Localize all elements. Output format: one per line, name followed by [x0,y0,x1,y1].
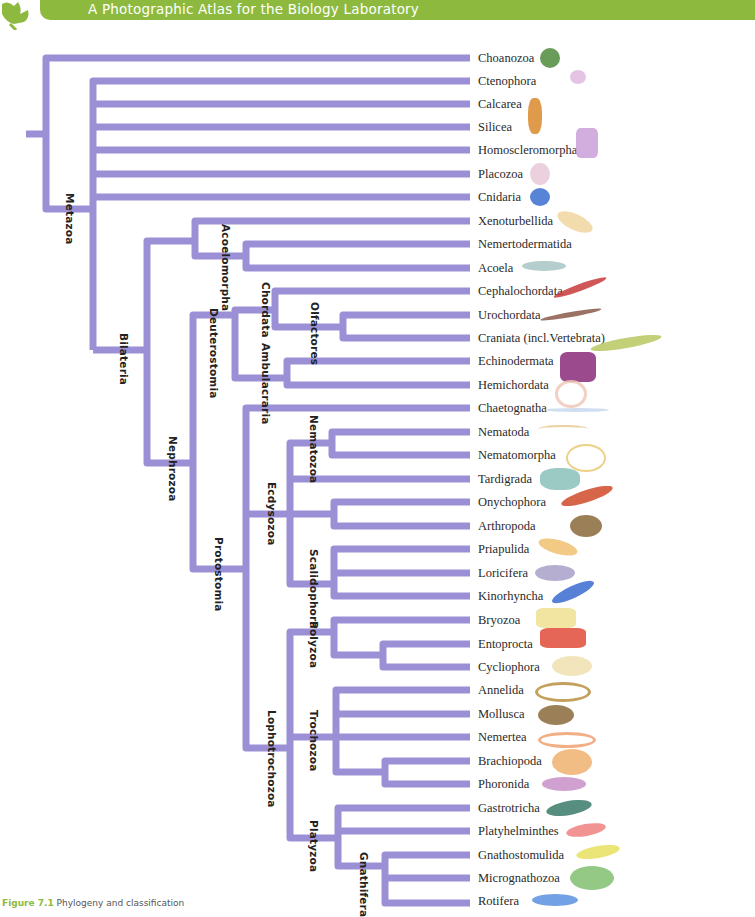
cnidaria-illustration-icon [530,188,550,206]
taxon-label: Loricifera [478,566,528,580]
taxon-label: Phoronida [478,777,529,791]
taxon-label: Onychophora [478,495,546,509]
choanozoa-illustration-icon [540,48,560,68]
taxon-label: Homoscleromorpha [478,143,577,157]
taxon-label: Entoprocta [478,637,533,651]
taxon-label: Mollusca [478,707,525,721]
taxon-label: Nemertodermatida [478,237,572,251]
clade-label-gnathifera: Gnathifera [358,852,370,917]
taxon-label: Nemertea [478,730,527,744]
taxon-label: Platyhelminthes [478,824,559,838]
clade-label-ecdysozoa: Ecdysozoa [266,482,278,545]
calcarea-illustration-icon [528,98,542,134]
taxon-label: Annelida [478,683,524,697]
taxon-label: Gnathostomulida [478,848,564,862]
nemertea-illustration-icon [538,732,596,748]
taxon-label: Nematoda [478,425,529,439]
taxon-label: Chaetognatha [478,401,547,415]
chaetognatha-illustration-icon [545,408,609,412]
acoela-illustration-icon [522,261,566,271]
loricifera-illustration-icon [535,565,575,581]
taxon-label: Echinodermata [478,354,554,368]
taxon-label: Cephalochordata [478,284,563,298]
brachiopoda-illustration-icon [552,749,592,775]
clade-label-lophotrochozoa: Lophotrochozoa [266,710,278,808]
taxon-label: Arthropoda [478,519,536,533]
micrognathozoa-illustration-icon [570,866,614,890]
nematoda-illustration-icon [538,425,588,433]
taxon-label: Brachiopoda [478,754,542,768]
clade-label-polyzoa: Polyzoa [308,621,320,668]
hemichordata-illustration-icon [555,380,587,408]
ctenophora-illustration-icon [570,70,586,84]
taxon-label: Acoela [478,261,513,275]
taxon-label: Calcarea [478,97,522,111]
figure-caption-text: Phylogeny and classification [57,898,185,908]
mollusca-illustration-icon [538,705,574,725]
phoronida-illustration-icon [542,777,586,791]
clade-label-metazoa: Metazoa [64,193,76,245]
figure-caption: Figure 7.1 Phylogeny and classification [2,898,184,908]
clade-label-chordata: Chordata [260,282,272,338]
taxon-label: Cycliophora [478,660,540,674]
echinodermata-illustration-icon [560,352,596,382]
taxon-label: Cnidaria [478,190,521,204]
rotifera-illustration-icon [532,894,578,906]
taxon-label: Rotifera [478,894,519,908]
bryozoa-illustration-icon [536,608,576,628]
taxon-label: Bryozoa [478,613,520,627]
clade-label-protostomia: Protostomia [213,537,225,612]
clade-label-nephrozoa: Nephrozoa [167,436,179,502]
taxon-label: Hemichordata [478,378,549,392]
taxon-label: Kinorhyncha [478,589,543,603]
taxon-label: Silicea [478,120,512,134]
arthropoda-illustration-icon [570,515,602,537]
taxon-label: Nematomorpha [478,448,556,462]
clade-label-trochozoa: Trochozoa [308,710,320,772]
taxon-label: Micrognathozoa [478,871,560,885]
homoscleromorpha-illustration-icon [576,128,598,158]
taxon-label: Gastrotricha [478,801,540,815]
taxon-label: Priapulida [478,542,529,556]
clade-label-ambulacraria: Ambulacraria [260,343,272,425]
taxon-label: Placozoa [478,167,523,181]
annelida-illustration-icon [535,682,591,702]
clade-label-nematozoa: Nematozoa [308,415,320,483]
clade-label-scalidophora: Scalidophora [308,549,320,629]
clade-label-bilateria: Bilateria [118,333,130,385]
clade-label-platyzoa: Platyzoa [308,820,320,872]
taxon-label: Ctenophora [478,74,536,88]
taxon-label: Tardigrada [478,472,532,486]
clade-label-olfactores: Olfactores [309,302,321,365]
figure-number: Figure 7.1 [2,898,54,908]
clade-label-acoelomorpha: Acoelomorpha [220,224,232,311]
taxon-label: Choanozoa [478,51,534,65]
taxon-label: Craniata (incl.Vertebrata) [478,331,605,345]
nematomorpha-illustration-icon [566,444,606,472]
placozoa-illustration-icon [530,163,550,185]
entoprocta-illustration-icon [540,628,586,648]
taxon-label: Urochordata [478,308,540,322]
taxon-label: Xenoturbellida [478,214,553,228]
clade-label-deuterostomia: Deuterostomia [208,308,220,399]
tardigrada-illustration-icon [540,468,580,490]
cycliophora-illustration-icon [552,656,592,676]
